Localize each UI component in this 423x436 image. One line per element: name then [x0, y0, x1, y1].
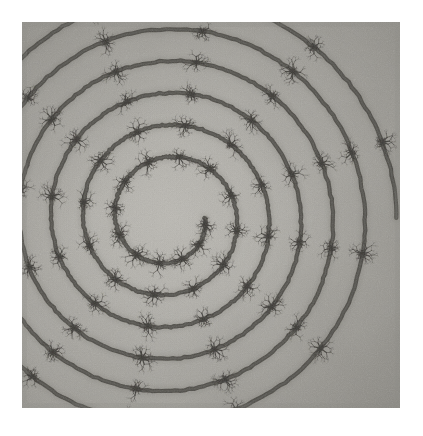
spiral-artwork [22, 22, 400, 408]
photograph [22, 22, 400, 408]
page-root: A grayscale photograph of a spiral drawn… [0, 0, 423, 436]
paper-grain-overlay [22, 22, 400, 408]
